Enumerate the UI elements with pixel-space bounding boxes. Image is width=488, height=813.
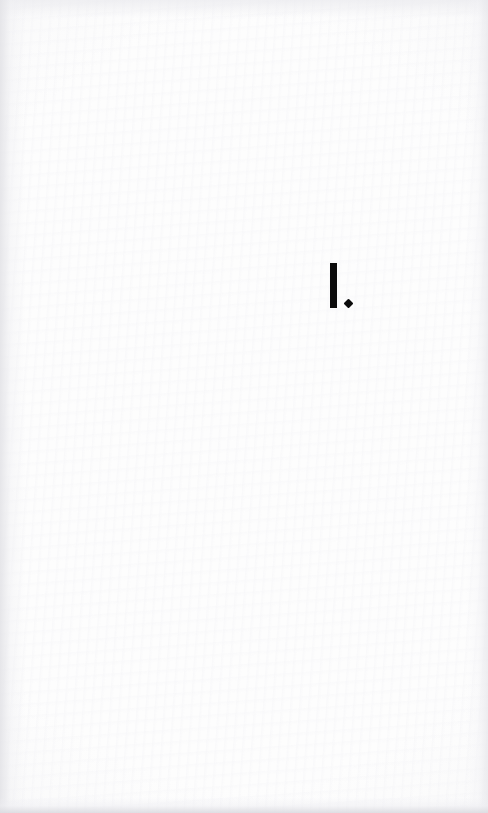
roman-numeral-one-glyph: I xyxy=(330,263,337,308)
paper-texture xyxy=(0,0,488,813)
part-number-label: I. xyxy=(329,308,330,309)
scanned-page: I . I. xyxy=(0,0,488,813)
page-right-edge-shadow xyxy=(466,0,488,813)
page-top-edge-shadow xyxy=(0,0,488,18)
part-number: I . I. xyxy=(330,263,352,308)
period-glyph: . xyxy=(344,299,354,309)
page-left-edge-shadow xyxy=(0,0,26,813)
page-bottom-edge-smudge xyxy=(0,797,488,813)
